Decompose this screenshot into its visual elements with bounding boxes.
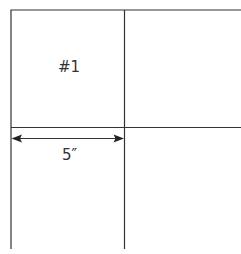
dimension-label: 5″ [62, 146, 77, 164]
panel-label: #1 [58, 58, 80, 76]
grid-diagram [0, 0, 241, 254]
